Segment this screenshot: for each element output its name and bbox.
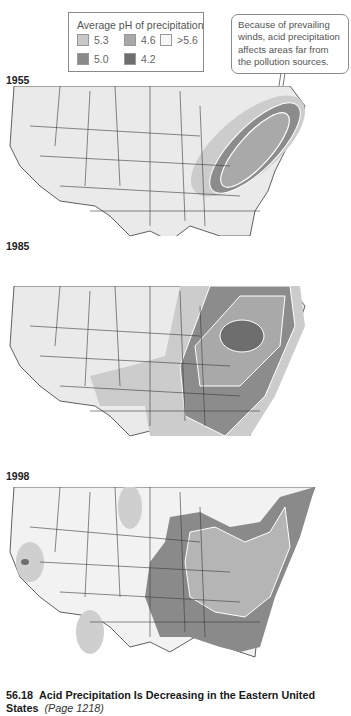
- map-1985: [0, 286, 351, 436]
- map-1955: [0, 86, 351, 236]
- year-label-1985: 1985: [6, 240, 29, 252]
- year-label-1955: 1955: [6, 74, 29, 86]
- caption-number: 56.18: [6, 689, 33, 701]
- figure-caption: 56.18 Acid Precipitation Is Decreasing i…: [6, 689, 346, 715]
- year-label-1998: 1998: [6, 470, 29, 482]
- map-1998: [0, 487, 351, 662]
- caption-page-ref: (Page 1218): [44, 702, 103, 714]
